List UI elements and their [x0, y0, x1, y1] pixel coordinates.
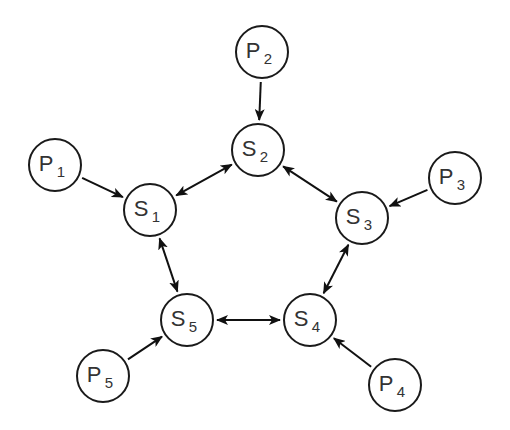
edge-p5-s5-arrow [128, 337, 162, 360]
node-label: S [171, 306, 186, 331]
node-circle [161, 294, 213, 346]
node-circle [284, 294, 336, 346]
node-label: S [134, 196, 149, 221]
node-p1: P1 [29, 139, 81, 191]
node-label: P [246, 38, 261, 63]
edge-p4-s4-arrow [334, 338, 371, 367]
node-subscript: 1 [57, 163, 65, 180]
node-p5: P5 [77, 350, 129, 402]
node-s5: S5 [161, 294, 213, 346]
node-s3: S3 [336, 192, 388, 244]
edge-s1-s2-arrow [176, 165, 232, 196]
node-circle [232, 124, 284, 176]
node-subscript: 1 [152, 208, 160, 225]
node-subscript: 2 [264, 50, 272, 67]
node-label: P [39, 151, 54, 176]
node-label: P [379, 371, 394, 396]
node-circle [336, 192, 388, 244]
node-p3: P3 [429, 152, 481, 204]
node-circle [77, 350, 129, 402]
node-subscript: 3 [457, 176, 465, 193]
node-label: S [346, 204, 361, 229]
node-subscript: 5 [189, 318, 197, 335]
node-p2: P2 [236, 26, 288, 78]
node-circle [124, 184, 176, 236]
node-subscript: 3 [364, 216, 372, 233]
edge-p2-s2-arrow [259, 82, 261, 120]
node-label: P [87, 362, 102, 387]
node-p4: P4 [369, 359, 421, 411]
node-s2: S2 [232, 124, 284, 176]
edge-p1-s1-arrow [82, 178, 123, 197]
node-subscript: 2 [260, 148, 268, 165]
node-s1: S1 [124, 184, 176, 236]
edge-s5-s1-arrow [160, 238, 178, 291]
node-s4: S4 [284, 294, 336, 346]
node-subscript: 4 [312, 318, 320, 335]
node-label: S [294, 306, 309, 331]
node-circle [429, 152, 481, 204]
node-label: S [242, 136, 257, 161]
node-subscript: 5 [105, 374, 113, 391]
node-label: P [439, 164, 454, 189]
edge-s2-s3-arrow [283, 166, 337, 201]
edge-p3-s3-arrow [390, 190, 428, 206]
edge-s3-s4-arrow [324, 245, 349, 294]
ring-diagram: P1P2P3P4P5S1S2S3S4S5 [0, 0, 510, 430]
node-circle [29, 139, 81, 191]
nodes-layer: P1P2P3P4P5S1S2S3S4S5 [29, 26, 481, 411]
node-subscript: 4 [397, 383, 405, 400]
node-circle [236, 26, 288, 78]
node-circle [369, 359, 421, 411]
